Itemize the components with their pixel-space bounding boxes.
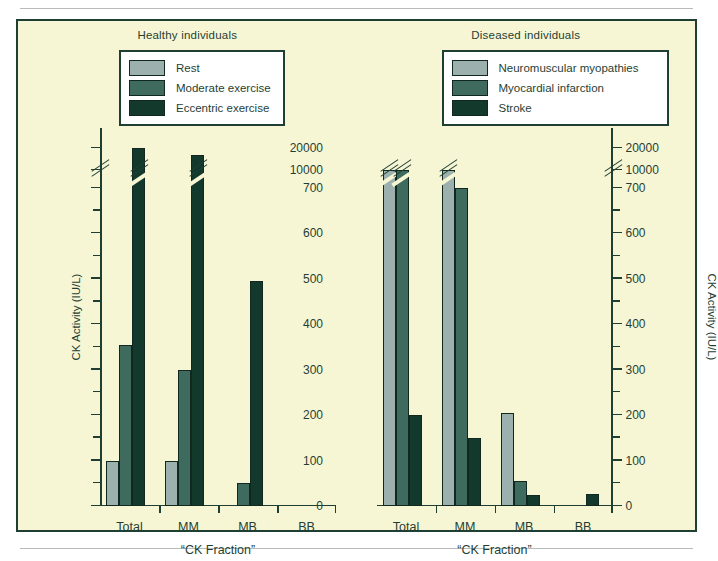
legend-healthy: Rest Moderate exercise Eccentric exercis…: [119, 50, 285, 126]
panel-title-healthy: Healthy individuals: [18, 29, 357, 41]
bar: [455, 188, 468, 506]
y-axis-tick-major: [91, 187, 100, 189]
legend-swatch-myocardial-infarction: [452, 80, 488, 96]
bar: [132, 148, 145, 506]
y-axis-tick-label: 600: [303, 226, 323, 240]
y-axis-tick-minor: [93, 346, 100, 348]
x-axis-tick-label-mm: MM: [455, 520, 476, 534]
y-axis-tick-label: 400: [303, 317, 323, 331]
y-axis-tick-label: 700: [303, 181, 323, 195]
x-axis-tick: [335, 506, 337, 513]
y-axis-tick-minor: [93, 482, 100, 484]
y-axis-tick-label: 20000: [290, 141, 323, 155]
x-axis-tick-label-total: Total: [116, 520, 142, 534]
y-axis-tick-major: [91, 169, 100, 171]
legend-label: Rest: [176, 62, 200, 74]
x-axis-tick: [495, 506, 497, 513]
y-axis-tick-label: 20000: [626, 141, 659, 155]
y-axis-tick-major: [613, 232, 622, 234]
plot-area-diseased: CK Activity (IU/L) “CK Fraction” 0100200…: [377, 128, 613, 506]
legend-item: Rest: [129, 58, 273, 78]
legend-swatch-eccentric-exercise: [129, 100, 165, 116]
legend-label: Eccentric exercise: [176, 102, 269, 114]
y-axis-tick-label: 200: [626, 408, 646, 422]
y-axis-tick-major: [613, 277, 622, 279]
legend-label: Stroke: [499, 102, 532, 114]
x-axis-tick-label-total: Total: [393, 520, 419, 534]
y-axis-tick-label: 500: [626, 272, 646, 286]
x-axis-tick-label-mm: MM: [178, 520, 199, 534]
legend-diseased: Neuromuscular myopathies Myocardial infa…: [442, 50, 669, 126]
y-axis-tick-major: [91, 277, 100, 279]
legend-item: Neuromuscular myopathies: [452, 58, 657, 78]
x-axis-tick-label-mb: MB: [238, 520, 257, 534]
y-axis-tick-minor: [93, 255, 100, 257]
bar: [250, 281, 263, 506]
x-axis-tick: [277, 506, 279, 513]
bar: [191, 155, 204, 506]
y-axis-tick-label: 500: [303, 272, 323, 286]
y-axis-tick-major: [613, 147, 622, 149]
legend-swatch-rest: [129, 60, 165, 76]
legend-swatch-neuromuscular-myopathies: [452, 60, 488, 76]
legend-swatch-stroke: [452, 100, 488, 116]
y-axis-line-right: [611, 128, 613, 506]
legend-item: Myocardial infarction: [452, 78, 657, 98]
bar: [383, 170, 396, 506]
y-axis-tick-major: [91, 414, 100, 416]
legend-swatch-moderate-exercise: [129, 80, 165, 96]
y-axis-tick-minor: [93, 391, 100, 393]
x-axis-tick: [611, 506, 613, 513]
bar: [501, 413, 514, 506]
y-axis-tick-major: [613, 187, 622, 189]
x-axis-tick-label-bb: BB: [298, 520, 315, 534]
legend-label: Neuromuscular myopathies: [499, 62, 639, 74]
y-axis-tick-minor: [93, 300, 100, 302]
bar: [409, 415, 422, 506]
y-axis-tick-major: [613, 459, 622, 461]
y-axis-tick-minor: [93, 209, 100, 211]
y-axis-tick-major: [91, 505, 100, 507]
y-axis-tick-minor: [613, 300, 620, 302]
bar: [442, 170, 455, 506]
y-axis-tick-major: [91, 147, 100, 149]
y-axis-tick-label: 400: [626, 317, 646, 331]
figure-panel: Healthy individuals Rest Moderate exerci…: [16, 19, 697, 532]
y-axis-tick-label: 300: [303, 363, 323, 377]
y-axis-title-right: CK Activity (IU/L): [706, 274, 718, 361]
y-axis-tick-label: 0: [316, 499, 323, 513]
y-axis-tick-major: [613, 505, 622, 507]
bar: [527, 495, 540, 506]
panel-title-diseased: Diseased individuals: [357, 29, 696, 41]
bar: [237, 483, 250, 506]
plot-area-healthy: CK Activity (IU/L) “CK Fraction” 0100200…: [100, 128, 336, 506]
y-axis-tick-major: [91, 368, 100, 370]
x-axis-title-left: “CK Fraction”: [100, 543, 336, 557]
bar: [468, 438, 481, 506]
y-axis-tick-label: 100: [303, 454, 323, 468]
y-axis-tick-major: [613, 368, 622, 370]
bar: [119, 345, 132, 506]
bar: [165, 461, 178, 506]
chart-diseased-individuals: Diseased individuals Neuromuscular myopa…: [357, 21, 696, 530]
y-axis-tick-minor: [93, 436, 100, 438]
y-axis-tick-minor: [613, 482, 620, 484]
x-axis-tick: [159, 506, 161, 513]
y-axis-tick-major: [91, 232, 100, 234]
y-axis-tick-label: 0: [626, 499, 633, 513]
bar: [106, 461, 119, 506]
y-axis-tick-major: [91, 323, 100, 325]
x-axis-tick-label-mb: MB: [515, 520, 534, 534]
y-axis-tick-major: [91, 459, 100, 461]
chart-healthy-individuals: Healthy individuals Rest Moderate exerci…: [18, 21, 357, 530]
x-axis-tick: [554, 506, 556, 513]
bar: [178, 370, 191, 506]
y-axis-tick-minor: [613, 346, 620, 348]
y-axis-tick-label: 100: [626, 454, 646, 468]
y-axis-tick-label: 700: [626, 181, 646, 195]
legend-label: Moderate exercise: [176, 82, 271, 94]
y-axis-tick-label: 300: [626, 363, 646, 377]
y-axis-line-left: [100, 128, 102, 506]
x-axis-tick: [218, 506, 220, 513]
